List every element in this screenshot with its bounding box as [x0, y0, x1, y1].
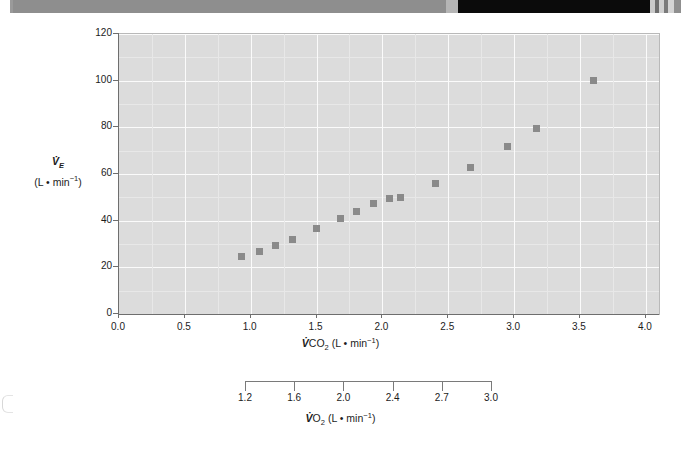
data-point [353, 208, 360, 215]
y-tick-label: 80 [82, 121, 112, 131]
x-tick-mark [513, 314, 514, 318]
gridline-vertical [646, 34, 647, 314]
x-axis-title-main: CO [309, 337, 325, 349]
secondary-tick-mark [245, 381, 246, 391]
gridline-vertical-minor [547, 34, 548, 314]
gridline-horizontal [119, 267, 659, 268]
scan-band-black-main [458, 0, 650, 13]
y-axis-title-symbol: V̇E [8, 155, 108, 172]
gridline-vertical [382, 34, 383, 314]
data-point [313, 225, 320, 232]
x-tick-label: 3.0 [493, 322, 533, 332]
y-tick-label: 20 [82, 261, 112, 271]
y-tick-mark [113, 80, 118, 81]
scatter-chart-figure: 020406080100120 V̇E (L • min−1) 0.00.51.… [0, 13, 681, 454]
x-tick-mark [250, 314, 251, 318]
y-tick-label: 40 [82, 215, 112, 225]
scan-band-left-white [0, 0, 10, 13]
gridline-vertical-minor [415, 34, 416, 314]
y-axis-line [118, 33, 119, 314]
secondary-axis-tick-labels: 1.21.62.02.42.73.0 [245, 393, 491, 405]
gridline-vertical-minor [152, 34, 153, 314]
gridline-vertical [317, 34, 318, 314]
x-tick-label: 0.5 [164, 322, 204, 332]
scan-band-gray-fade [446, 0, 458, 13]
y-tick-label: 100 [82, 75, 112, 85]
data-point [370, 200, 377, 207]
gridline-horizontal [119, 174, 659, 175]
y-axis-title: V̇E (L • min−1) [8, 155, 108, 189]
data-point [504, 143, 511, 150]
x-tick-mark [184, 314, 185, 318]
data-point [289, 236, 296, 243]
secondary-tick-mark [294, 381, 295, 391]
secondary-axis-title-units: (L • min−1) [325, 412, 375, 424]
gridline-vertical-minor [613, 34, 614, 314]
x-tick-mark [316, 314, 317, 318]
gridline-horizontal [119, 81, 659, 82]
x-tick-mark [118, 314, 119, 318]
gridline-horizontal [119, 34, 659, 35]
x-tick-mark [579, 314, 580, 318]
data-point [590, 77, 597, 84]
x-tick-label: 2.0 [361, 322, 401, 332]
data-point [467, 164, 474, 171]
scan-band-gray-main [13, 0, 458, 13]
secondary-axis-bar [245, 381, 491, 382]
y-tick-mark [113, 126, 118, 127]
secondary-axis-title-main: O [313, 412, 321, 424]
gridline-horizontal-minor [119, 57, 659, 58]
gridline-vertical-minor [481, 34, 482, 314]
x-tick-mark [645, 314, 646, 318]
gridline-vertical [185, 34, 186, 314]
x-tick-label: 0.0 [98, 322, 138, 332]
y-tick-mark [113, 266, 118, 267]
secondary-tick-mark [442, 381, 443, 391]
data-point [238, 253, 245, 260]
secondary-tick-label: 2.0 [323, 393, 363, 403]
x-axis-title: V̇CO2 (L • min−1) [0, 335, 681, 352]
x-tick-label: 2.5 [427, 322, 467, 332]
x-tick-label: 4.0 [625, 322, 665, 332]
secondary-tick-label: 1.2 [225, 393, 265, 403]
secondary-tick-mark [491, 381, 492, 391]
scan-artifact-band [0, 0, 681, 13]
scan-band-stripe-6 [674, 0, 681, 13]
data-point [386, 195, 393, 202]
data-point [337, 215, 344, 222]
gridline-vertical [251, 34, 252, 314]
data-point [533, 125, 540, 132]
gridline-horizontal [119, 221, 659, 222]
gridline-vertical [448, 34, 449, 314]
secondary-tick-label: 2.7 [422, 393, 462, 403]
gridline-vertical [580, 34, 581, 314]
x-axis-title-units: (L • min−1) [329, 337, 379, 349]
data-point [272, 242, 279, 249]
data-point [256, 248, 263, 255]
gridline-horizontal-minor [119, 244, 659, 245]
y-tick-mark [113, 173, 118, 174]
secondary-axis-title: V̇O2 (L • min−1) [0, 410, 681, 427]
y-tick-label: 120 [82, 28, 112, 38]
gridline-horizontal-minor [119, 291, 659, 292]
plot-area [118, 33, 660, 315]
x-axis-line [118, 314, 659, 315]
secondary-axis-scale [245, 381, 491, 391]
y-tick-mark [113, 33, 118, 34]
x-tick-label: 1.0 [230, 322, 270, 332]
secondary-tick-mark [343, 381, 344, 391]
gridline-vertical [514, 34, 515, 314]
gridline-horizontal-minor [119, 151, 659, 152]
data-point [397, 194, 404, 201]
x-tick-label: 1.5 [296, 322, 336, 332]
secondary-tick-label: 3.0 [471, 393, 511, 403]
gridline-vertical-minor [284, 34, 285, 314]
gridline-vertical-minor [218, 34, 219, 314]
x-tick-mark [447, 314, 448, 318]
secondary-tick-label: 2.4 [373, 393, 413, 403]
page-corner-mark [2, 395, 13, 413]
x-tick-label: 3.5 [559, 322, 599, 332]
secondary-tick-mark [393, 381, 394, 391]
y-tick-mark [113, 220, 118, 221]
y-tick-label: 0 [82, 308, 112, 318]
